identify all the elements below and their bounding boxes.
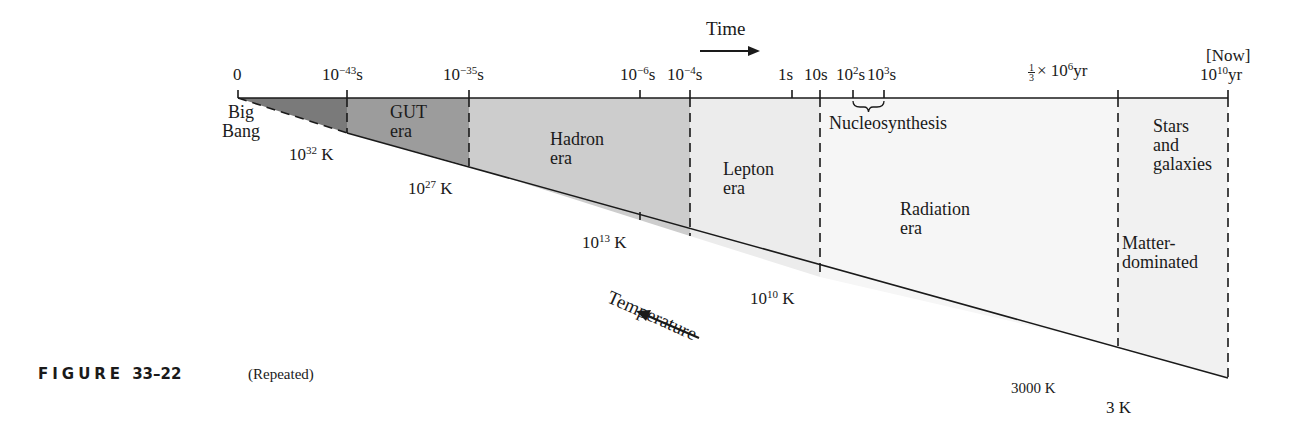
- time-tick-10: 1010yr: [1200, 66, 1242, 84]
- figure-note: (Repeated): [248, 366, 314, 383]
- temp-tick-10-13: 1013 K: [582, 234, 627, 252]
- lepton-era-label: Leptonera: [723, 160, 774, 198]
- figure-caption: FIGURE33–22: [38, 365, 181, 383]
- temp-tick-10-32: 1032 K: [289, 146, 334, 164]
- time-tick-7: 102s: [836, 66, 865, 84]
- temp-tick-10-27: 1027 K: [408, 180, 453, 198]
- time-tick-1: 10−43s: [322, 66, 363, 84]
- time-arrow-head: [748, 46, 760, 56]
- time-tick-2: 10−35s: [443, 66, 484, 84]
- time-tick-6: 10s: [804, 66, 828, 84]
- temp-tick-3k: 3 K: [1106, 399, 1131, 417]
- one-third-fraction: 13: [1028, 63, 1035, 82]
- stars-galaxies-label: Starsandgalaxies: [1153, 117, 1212, 174]
- time-tick-5: 1s: [778, 66, 793, 84]
- big-bang-label: BigBang: [222, 103, 260, 141]
- nucleosynthesis-label: Nucleosynthesis: [829, 114, 947, 133]
- matter-dominated-label: Matter-dominated: [1122, 234, 1198, 272]
- time-tick-8: 103s: [867, 66, 896, 84]
- time-tick-4: 10−4s: [667, 66, 702, 84]
- hadron-era-label: Hadronera: [550, 130, 604, 168]
- gut-era-label: GUTera: [390, 103, 427, 141]
- time-tick-0: 0: [233, 66, 242, 84]
- temp-tick-3000k: 3000 K: [1011, 379, 1056, 397]
- time-ticks: [238, 90, 1228, 98]
- time-tick-3: 10−6s: [620, 66, 655, 84]
- now-label: [Now]: [1206, 47, 1250, 65]
- temp-tick-10-10: 1010 K: [750, 290, 795, 308]
- time-tick-9: 13× 106yr: [1028, 62, 1088, 82]
- time-label: Time: [706, 20, 745, 38]
- radiation-era-label: Radiationera: [900, 200, 970, 238]
